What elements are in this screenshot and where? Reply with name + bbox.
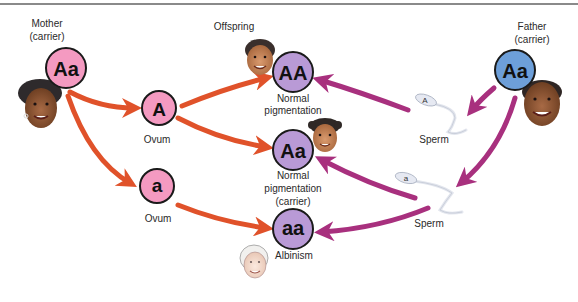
arrow-mother-to-ovum-A [70, 92, 134, 108]
ovum-A-label: Ovum [144, 134, 171, 145]
offspring-Aa-genotype: Aa [280, 140, 306, 162]
ovum-a-allele: a [152, 175, 163, 196]
father-group: Father (carrier) Aa [495, 21, 562, 126]
father-label: Father [518, 21, 548, 32]
offspring-aa-genotype: aa [282, 217, 305, 239]
paternal-arrows [320, 80, 515, 232]
offspring-AA-genotype: AA [279, 62, 308, 84]
boy-face-icon [245, 39, 275, 75]
albino-face-icon [240, 245, 268, 278]
ovum-a-group: a Ovum [140, 169, 174, 224]
offspring-aa-group: aa Albinism [240, 209, 313, 278]
sperm-a-allele: a [404, 174, 409, 183]
arrow-ovum-A-to-Aa [178, 118, 266, 147]
arrow-sperm-A-to-AA [320, 80, 408, 110]
offspring-Aa-line1: Normal [277, 170, 309, 181]
sperm-a-group: a Sperm [394, 170, 462, 229]
arrow-father-to-sperm-A [472, 88, 494, 110]
father-genotype: Aa [502, 60, 528, 82]
offspring-AA-line1: Normal [277, 93, 309, 104]
arrow-sperm-a-to-aa [322, 208, 428, 232]
sperm-A-allele: A [422, 96, 428, 105]
sperm-a-label: Sperm [414, 218, 443, 229]
father-sublabel: (carrier) [515, 34, 550, 45]
offspring-Aa-line2: pigmentation [264, 183, 321, 194]
sperm-A-label: Sperm [419, 134, 448, 145]
father-face-icon [522, 80, 562, 126]
ovum-A-allele: A [152, 99, 166, 120]
albinism-inheritance-diagram: Mother (carrier) Aa A Ovum a Ovum Offspr… [0, 0, 578, 302]
offspring-Aa-line3: (carrier) [276, 196, 311, 207]
sperm-A-group: A Sperm [414, 92, 466, 145]
offspring-aa-line1: Albinism [275, 250, 313, 261]
mother-genotype: Aa [53, 58, 79, 80]
arrow-ovum-A-to-AA [182, 78, 266, 106]
offspring-label: Offspring [214, 21, 254, 32]
offspring-AA-line2: pigmentation [264, 105, 321, 116]
mother-sublabel: (carrier) [30, 31, 65, 42]
mother-face-icon [18, 79, 62, 128]
mother-label: Mother [31, 18, 63, 29]
arrow-ovum-a-to-aa [178, 205, 266, 228]
ovum-A-group: A Ovum [142, 91, 176, 145]
offspring-AA-group: AA Normal pigmentation [245, 39, 322, 116]
ovum-a-label: Ovum [145, 213, 172, 224]
